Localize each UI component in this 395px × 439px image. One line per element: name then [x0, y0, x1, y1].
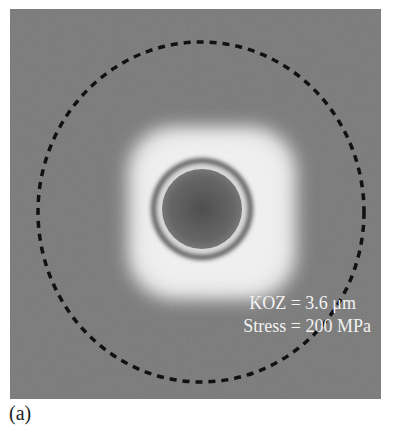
tsv-core — [162, 169, 242, 249]
panel-label: (a) — [9, 402, 31, 425]
stress-annotation: Stress = 200 MPa — [243, 315, 371, 337]
stress-map-image: KOZ = 3.6 μm Stress = 200 MPa — [10, 9, 381, 399]
koz-annotation: KOZ = 3.6 μm — [249, 292, 356, 314]
stress-map-graphic — [10, 9, 381, 399]
